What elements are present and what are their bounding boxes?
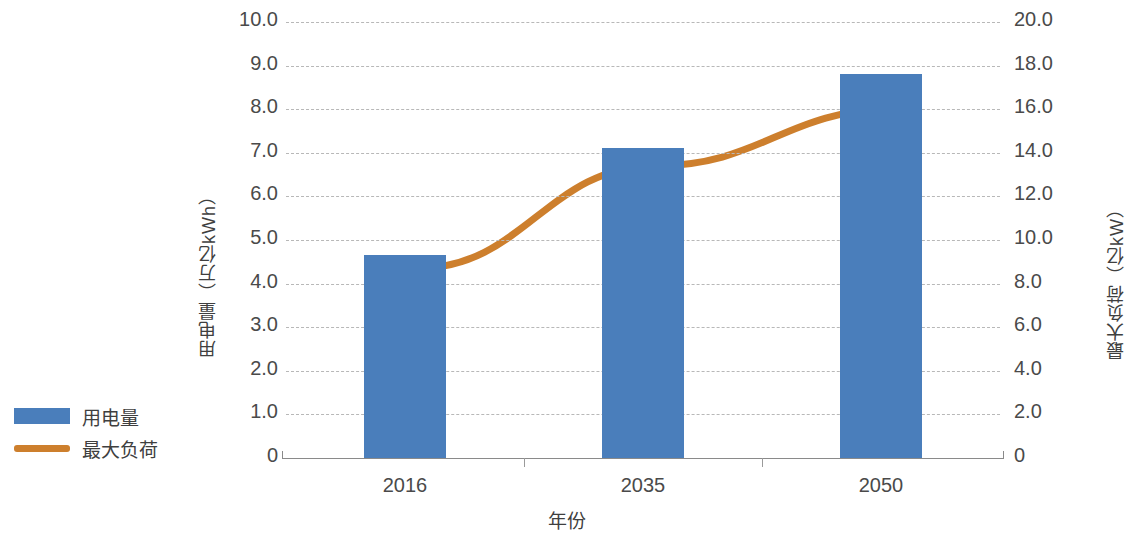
- x-tick-label-2035: 2035: [583, 474, 703, 497]
- y-tick-label-right: 10.0: [1014, 226, 1053, 249]
- x-axis-tick: [524, 458, 525, 467]
- y-tick-label-right: 20.0: [1014, 8, 1053, 31]
- y-tick-label-left: 2.0: [250, 357, 278, 380]
- bar-2016[interactable]: [364, 255, 446, 458]
- y-tick-label-right: 4.0: [1014, 357, 1042, 380]
- y-tick-label-left: 9.0: [250, 52, 278, 75]
- plot-area: [286, 22, 1000, 458]
- legend-item-line[interactable]: 最大负荷: [14, 432, 204, 464]
- y-tick-label-right: 16.0: [1014, 95, 1053, 118]
- y-tick-label-left: 4.0: [250, 270, 278, 293]
- y-tick-label-left: 7.0: [250, 139, 278, 162]
- y-tick-label-right: 12.0: [1014, 182, 1053, 205]
- legend-item-bar[interactable]: 用电量: [14, 400, 204, 432]
- x-tick-label-2016: 2016: [345, 474, 465, 497]
- y-axis-title-right: 最大负荷（亿kW）: [1104, 190, 1130, 360]
- y-tick-label-left: 8.0: [250, 95, 278, 118]
- y-tick-label-left: 1.0: [250, 400, 278, 423]
- y-tick-label-right: 18.0: [1014, 52, 1053, 75]
- legend-item-label: 用电量: [82, 403, 139, 430]
- y-axis-title-left: 用电量（万亿kWh）: [196, 138, 222, 358]
- y-tick-label-right: 8.0: [1014, 270, 1042, 293]
- y-tick-label-left: 5.0: [250, 226, 278, 249]
- bar-2050[interactable]: [840, 74, 922, 458]
- y-axis-ticks-right: 02.04.06.08.010.012.014.016.018.020.0: [1014, 0, 1078, 537]
- gridline: [286, 22, 1000, 23]
- gridline: [286, 66, 1000, 67]
- y-tick-label-right: 14.0: [1014, 139, 1053, 162]
- x-axis-tick: [762, 458, 763, 467]
- y-tick-label-left: 3.0: [250, 313, 278, 336]
- x-axis-cap-left: [282, 451, 283, 459]
- y-tick-label-right: 6.0: [1014, 313, 1042, 336]
- y-tick-label-left: 10.0: [239, 8, 278, 31]
- y-tick-label-left: 6.0: [250, 182, 278, 205]
- legend-item-label: 最大负荷: [82, 435, 158, 462]
- y-tick-label-right: 2.0: [1014, 400, 1042, 423]
- bar-2035[interactable]: [602, 148, 684, 458]
- legend-bar-swatch-icon: [14, 408, 70, 424]
- x-axis-line: [282, 458, 1004, 459]
- y-axis-ticks-left: 01.02.03.04.05.06.07.08.09.010.0: [228, 0, 278, 537]
- chart-legend: 用电量 最大负荷: [14, 400, 204, 464]
- x-axis-cap-right: [1003, 451, 1004, 459]
- y-tick-label-left: 0: [267, 444, 278, 467]
- x-tick-label-2050: 2050: [821, 474, 941, 497]
- chart-figure: 用电量 最大负荷 用电量（万亿kWh） 最大负荷（亿kW） 年份 01.02.0…: [0, 0, 1134, 537]
- x-axis-title: 年份: [0, 506, 1134, 533]
- y-tick-label-right: 0: [1014, 444, 1025, 467]
- legend-line-swatch-icon: [14, 445, 70, 452]
